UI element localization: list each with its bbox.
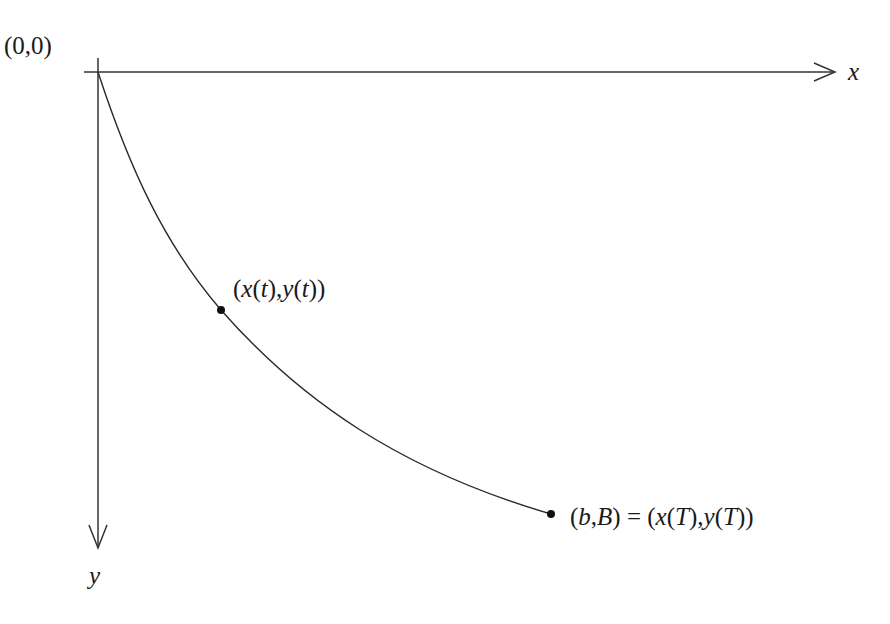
point-T-label: (b,B) = (x(T),y(T)) — [570, 503, 754, 531]
x-axis — [84, 63, 835, 81]
y-axis — [89, 58, 107, 548]
point-t-marker — [217, 306, 225, 314]
y-axis-label: y — [86, 562, 101, 589]
x-axis-label: x — [847, 58, 859, 85]
curve-diagram: (0,0) x y (x(t),y(t)) (b,B) = (x(T),y(T)… — [0, 0, 890, 624]
origin-label: (0,0) — [4, 32, 52, 60]
point-T-marker — [547, 510, 555, 518]
point-t-label: (x(t),y(t)) — [233, 275, 325, 303]
